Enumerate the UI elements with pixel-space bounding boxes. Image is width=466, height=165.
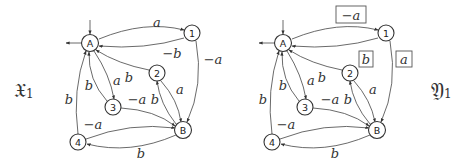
edge-label: b: [279, 78, 287, 93]
boxed-edge-label: −a: [336, 6, 366, 23]
svg-text:a: a: [400, 52, 408, 67]
edge-label: b: [331, 146, 339, 161]
edge-label: b: [137, 146, 145, 161]
edge-label: a: [113, 73, 121, 88]
diagram-x1: a −b −a b a b a b −a b −a b A 1 2 3 4: [14, 15, 222, 161]
state-label: 1: [383, 28, 389, 39]
state-node-A: A: [275, 35, 292, 52]
diagram-title-y1: 𝔜1: [431, 78, 452, 102]
state-node-3: 3: [297, 99, 313, 115]
state-label: A: [87, 38, 94, 49]
edge-label: −a: [84, 117, 103, 132]
edge-label: −a: [321, 92, 340, 107]
edge-label: a: [153, 15, 161, 30]
edge-label: b: [259, 92, 267, 107]
state-label: 3: [302, 102, 308, 113]
edge-label: −b: [162, 46, 181, 61]
automata-diagram-canvas: a −b −a b a b a b −a b −a b A 1 2 3 4: [0, 0, 466, 165]
edge-A-to-3: [287, 51, 306, 99]
state-node-1: 1: [184, 25, 200, 41]
edge-B-to-4: [87, 135, 176, 148]
diagram-y1: −a b a b a b a b −a b −a b A 1 2: [259, 6, 452, 161]
boxed-edge-label: b: [359, 51, 373, 67]
edge-1-to-B: [187, 41, 199, 122]
state-label: B: [180, 125, 187, 136]
state-label: 4: [75, 137, 81, 148]
state-label: 1: [189, 28, 195, 39]
edge-a-to-1: [99, 27, 184, 39]
state-label: B: [374, 125, 381, 136]
state-label: 3: [110, 102, 116, 113]
edge-label: a: [307, 73, 315, 88]
edge-B-to-4: [281, 135, 370, 148]
state-node-3: 3: [105, 99, 121, 115]
svg-text:b: b: [362, 52, 370, 67]
edge-A-to-1: [292, 27, 378, 39]
edge-3-to-A: [89, 52, 107, 101]
boxed-edge-label: a: [396, 51, 412, 67]
svg-text:−a: −a: [342, 8, 361, 23]
edge-label: −a: [204, 52, 223, 67]
state-node-2: 2: [342, 65, 358, 81]
state-label: A: [280, 38, 287, 49]
edge-1-to-A: [292, 38, 378, 47]
edge-label: b: [151, 92, 159, 107]
state-node-2: 2: [149, 65, 165, 81]
edge-label: a: [176, 82, 184, 97]
state-node-1: 1: [378, 25, 394, 41]
state-label: 2: [154, 68, 160, 79]
diagram-title-x1: 𝔛1: [14, 78, 34, 102]
edge-label: a: [369, 82, 377, 97]
state-node-4: 4: [264, 134, 280, 150]
state-node-B: B: [175, 122, 192, 139]
edge-label: b: [65, 92, 73, 107]
state-node-4: 4: [70, 134, 86, 150]
edge-1-to-B: [381, 41, 393, 122]
edge-label: b: [344, 92, 352, 107]
state-label: 2: [347, 68, 353, 79]
edge-3-to-A: [282, 52, 299, 101]
edge-2-to-A: [289, 50, 342, 70]
state-label: 4: [269, 137, 275, 148]
edge-label: b: [125, 70, 133, 85]
edge-label: −a: [128, 92, 147, 107]
edge-label: b: [85, 78, 93, 93]
edge-label: −a: [277, 117, 296, 132]
edge-2-to-A: [96, 50, 149, 70]
state-node-B: B: [369, 122, 386, 139]
edge-B-to-2: [350, 81, 370, 124]
edge-label: b: [318, 70, 326, 85]
state-node-A: A: [82, 35, 99, 52]
